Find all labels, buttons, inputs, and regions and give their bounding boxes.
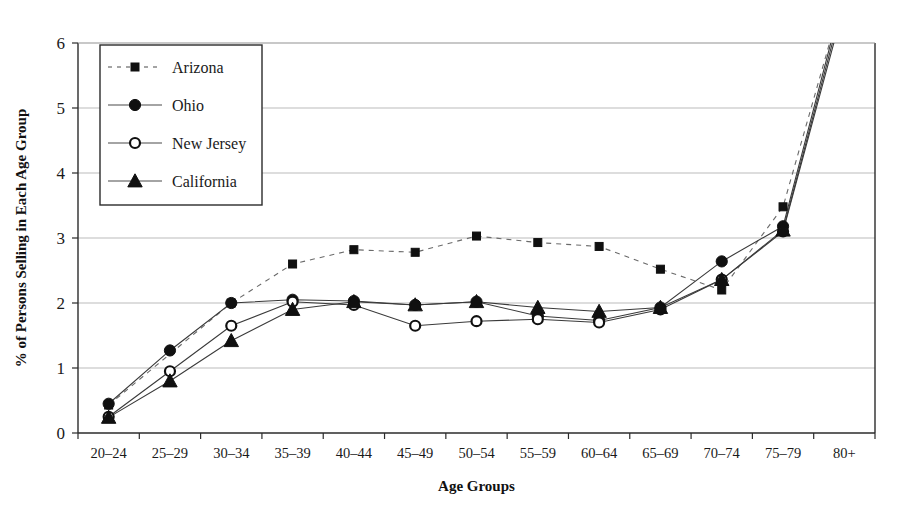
y-tick-label: 6 — [57, 34, 66, 53]
legend-label: California — [172, 173, 237, 190]
marker-circle-open — [130, 138, 140, 148]
marker-square — [595, 242, 603, 250]
chart-legend: ArizonaOhioNew JerseyCalifornia — [100, 45, 262, 205]
x-tick-label: 70–74 — [704, 445, 741, 461]
x-tick-label: 80+ — [833, 445, 856, 461]
y-tick-label: 4 — [57, 164, 66, 183]
marker-triangle — [224, 334, 238, 347]
chart-container: 0123456 20–2425–2930–3435–3940–4445–4950… — [0, 0, 910, 523]
y-tick-label: 5 — [57, 99, 66, 118]
x-tick-label: 30–34 — [213, 445, 250, 461]
marker-circle-open — [226, 321, 236, 331]
x-axis-ticks — [78, 433, 875, 439]
marker-circle-open — [410, 321, 420, 331]
marker-square — [473, 232, 481, 240]
y-tick-label: 2 — [57, 294, 66, 313]
series-markers-arizona — [105, 203, 787, 409]
x-tick-label: 40–44 — [336, 445, 373, 461]
marker-circle-filled — [716, 256, 727, 267]
x-tick-label: 25–29 — [152, 445, 188, 461]
x-tick-label: 50–54 — [458, 445, 495, 461]
series-markers-new-jersey — [104, 227, 788, 422]
marker-circle-open — [472, 316, 482, 326]
y-tick-label: 3 — [57, 229, 66, 248]
x-axis-tick-labels: 20–2425–2930–3435–3940–4445–4950–5455–59… — [91, 445, 856, 461]
y-axis-title: % of Persons Selling in Each Age Group — [13, 109, 29, 368]
marker-square — [289, 260, 297, 268]
y-axis-ticks — [72, 43, 78, 433]
x-tick-label: 55–59 — [520, 445, 556, 461]
marker-square — [656, 265, 664, 273]
marker-circle-filled — [103, 398, 114, 409]
legend-label: New Jersey — [172, 135, 246, 153]
marker-circle-filled — [164, 345, 175, 356]
marker-circle-filled — [226, 297, 237, 308]
x-tick-label: 65–69 — [642, 445, 678, 461]
marker-circle-filled — [129, 99, 140, 110]
marker-square — [718, 286, 726, 294]
marker-square — [779, 203, 787, 211]
marker-circle-open — [533, 314, 543, 324]
x-tick-label: 20–24 — [91, 445, 128, 461]
marker-square — [350, 246, 358, 254]
x-tick-label: 35–39 — [274, 445, 310, 461]
series-markers — [101, 203, 790, 424]
marker-square — [534, 239, 542, 247]
marker-square — [411, 248, 419, 256]
legend-label: Arizona — [172, 59, 224, 76]
x-tick-label: 75–79 — [765, 445, 801, 461]
y-tick-label: 0 — [57, 424, 66, 443]
x-tick-label: 60–64 — [581, 445, 618, 461]
legend-label: Ohio — [172, 97, 204, 114]
x-axis-title: Age Groups — [438, 478, 515, 494]
marker-circle-open — [594, 318, 604, 328]
marker-triangle — [163, 374, 177, 387]
marker-square — [131, 63, 139, 71]
line-chart: 0123456 20–2425–2930–3435–3940–4445–4950… — [0, 0, 910, 523]
y-axis-tick-labels: 0123456 — [57, 34, 66, 443]
y-tick-label: 1 — [57, 359, 66, 378]
series-markers-ohio — [103, 221, 789, 410]
x-tick-label: 45–49 — [397, 445, 433, 461]
